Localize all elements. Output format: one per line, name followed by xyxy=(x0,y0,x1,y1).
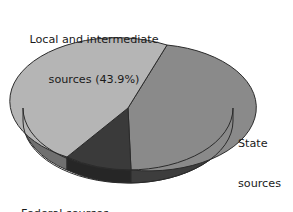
slice-label-local-line1: Local and intermediate xyxy=(14,33,174,46)
slice-label-federal-line1: Federal sources xyxy=(4,207,126,212)
pie-chart-figure: Local and intermediate sources (43.9%) S… xyxy=(0,0,293,212)
slice-label-federal: Federal sources (8.9%) xyxy=(4,180,126,212)
slice-label-state-line1: State xyxy=(238,137,293,150)
slice-label-state: State sources (47.1%) xyxy=(238,110,293,212)
slice-label-local-line2: sources (43.9%) xyxy=(14,73,174,86)
slice-label-state-line2: sources xyxy=(238,177,293,190)
slice-label-local: Local and intermediate sources (43.9%) xyxy=(14,6,174,113)
